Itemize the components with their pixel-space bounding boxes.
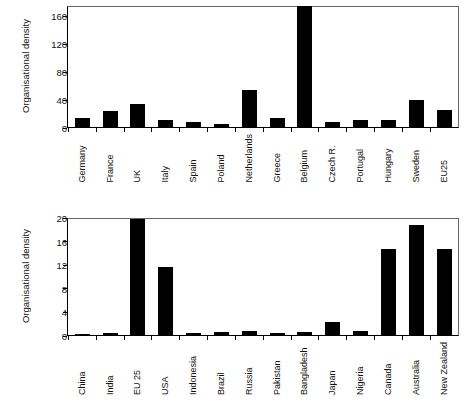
bar-japan: [325, 322, 340, 334]
x-tick-label: Australia: [412, 342, 421, 395]
x-tick-label: Belgium: [300, 134, 309, 183]
bar-cell: [124, 6, 152, 127]
x-tick-mark: [180, 128, 208, 132]
x-label-cell: UK: [124, 134, 152, 183]
bar-cell: [291, 218, 319, 335]
bar-italy: [158, 120, 173, 127]
y-tick-mark: [63, 265, 67, 266]
x-tick-label: Sweden: [412, 134, 421, 183]
bar-bangladesh: [297, 332, 312, 334]
x-label-cell: Italy: [152, 134, 180, 183]
bar-cell: [319, 218, 347, 335]
bar-cell: [152, 6, 180, 127]
x-tick-label: New Zealand: [440, 342, 449, 395]
x-tick-mark: [347, 128, 375, 132]
y-tick-mark: [63, 16, 67, 17]
bar-cell: [402, 218, 430, 335]
bar-eu25: [437, 110, 452, 127]
bar-pakistan: [270, 333, 285, 335]
bar-cell: [430, 218, 458, 335]
bar-cell: [291, 6, 319, 127]
bar-cell: [347, 6, 375, 127]
bar-eu-25: [130, 219, 145, 334]
x-tick-label: China: [78, 342, 87, 395]
x-tick-mark: [208, 336, 236, 340]
y-tick-mark: [63, 100, 67, 101]
x-tick-mark: [152, 336, 180, 340]
x-tick-mark: [96, 128, 124, 132]
bar-cell: [430, 6, 458, 127]
y-tick-mark: [63, 336, 67, 337]
x-tick-label: UK: [133, 134, 142, 183]
x-tick-mark: [402, 128, 430, 132]
bar-cell: [402, 6, 430, 127]
x-label-cell: Spain: [180, 134, 208, 183]
bar-cell: [319, 6, 347, 127]
x-tick-mark: [347, 336, 375, 340]
x-tick-label: USA: [161, 342, 170, 395]
x-tick-label: Hungary: [384, 134, 393, 183]
x-tick-mark: [68, 128, 96, 132]
x-tick-mark: [124, 128, 152, 132]
x-tick-mark: [152, 128, 180, 132]
bar-germany: [75, 118, 90, 126]
bar-cell: [263, 6, 291, 127]
x-label-cell: Russia: [235, 342, 263, 395]
x-tick-label: Indonesia: [189, 342, 198, 395]
x-label-cell: USA: [152, 342, 180, 395]
bar-spain: [186, 122, 201, 127]
bar-new-zealand: [437, 249, 452, 334]
x-tick-label: Canada: [384, 342, 393, 395]
bar-netherlands: [242, 90, 257, 127]
x-axis-labels: ChinaIndiaEU 25USAIndonesiaBrazilRussiaP…: [68, 342, 458, 395]
x-tick-label: India: [106, 342, 115, 395]
bar-usa: [158, 267, 173, 335]
x-tick-mark: [263, 128, 291, 132]
x-axis-labels: GermanyFranceUKItalySpainPolandNetherlan…: [68, 134, 458, 183]
chart-eu-countries: Organisational density04080120160Germany…: [0, 0, 470, 204]
x-label-cell: China: [68, 342, 96, 395]
x-label-cell: Hungary: [375, 134, 403, 183]
x-tick-label: Netherlands: [245, 134, 254, 183]
x-label-cell: France: [96, 134, 124, 183]
x-tick-label: Portugal: [356, 134, 365, 183]
bar-france: [103, 111, 118, 127]
x-tick-marks: [68, 336, 458, 340]
x-tick-mark: [208, 128, 236, 132]
x-tick-label: Poland: [217, 134, 226, 183]
bar-uk: [130, 104, 145, 127]
y-tick-mark: [63, 312, 67, 313]
x-label-cell: Pakistan: [263, 342, 291, 395]
bar-poland: [214, 124, 229, 127]
bar-greece: [270, 118, 285, 126]
x-tick-mark: [263, 336, 291, 340]
y-tick-mark: [63, 241, 67, 242]
x-label-cell: Indonesia: [180, 342, 208, 395]
x-label-cell: Nigeria: [347, 342, 375, 395]
y-tick-mark: [63, 72, 67, 73]
bar-cell: [180, 218, 208, 335]
bar-nigeria: [353, 331, 368, 334]
x-tick-mark: [319, 336, 347, 340]
x-label-cell: Japan: [319, 342, 347, 395]
x-tick-marks: [68, 128, 458, 132]
x-tick-mark: [180, 336, 208, 340]
chart-world-countries: Organisational density048121620ChinaIndi…: [0, 204, 470, 408]
x-tick-mark: [319, 128, 347, 132]
x-label-cell: Brazil: [208, 342, 236, 395]
x-tick-mark: [68, 336, 96, 340]
bar-sweden: [409, 100, 424, 127]
x-tick-label: Spain: [189, 134, 198, 183]
x-label-cell: Netherlands: [235, 134, 263, 183]
bar-hungary: [381, 120, 396, 127]
x-tick-mark: [235, 336, 263, 340]
bar-brazil: [214, 332, 229, 335]
bar-cell: [152, 218, 180, 335]
x-tick-label: Germany: [78, 134, 87, 183]
x-label-cell: India: [96, 342, 124, 395]
bar-cell: [375, 6, 403, 127]
x-label-cell: EU 25: [124, 342, 152, 395]
bar-cell: [96, 6, 124, 127]
x-label-cell: Czech R.: [319, 134, 347, 183]
bar-cell: [208, 6, 236, 127]
